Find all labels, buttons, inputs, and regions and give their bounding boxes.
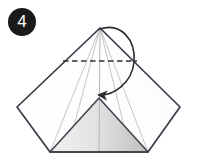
step-number-badge: 4 bbox=[8, 8, 36, 36]
origami-diagram-canvas: 4 bbox=[0, 0, 198, 163]
badge-label: 4 bbox=[17, 12, 26, 31]
origami-step-figure: 4 bbox=[0, 0, 198, 163]
